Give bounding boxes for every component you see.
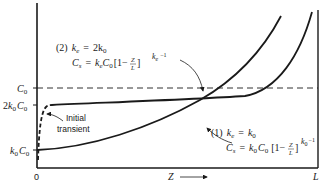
curve-1-bracket-close: ] — [295, 142, 298, 153]
curve-2-frac-num: Z — [131, 56, 135, 63]
curve-2-initial-transient — [38, 105, 52, 160]
curve-1-exponent: k0−1 — [301, 137, 315, 147]
y-label-c0: C0 — [17, 83, 28, 96]
curve-1-condition: (1)ke=k0 — [211, 127, 256, 140]
initial-transient-leader — [47, 114, 63, 121]
diagram-canvas: C0 2k0C0 k0C0 0 Z L (2)ke=2k0 Cs=keC0[1−… — [0, 0, 325, 185]
y-label-k0c0: k0C0 — [10, 145, 30, 158]
curve-2-frac-den: L — [130, 64, 135, 71]
curve-2-condition: (2)ke=2k0 — [56, 42, 107, 55]
x-end-label: L — [312, 171, 319, 182]
curve-2-label: (2)ke=2k0 Cs=keC0[1− Z L ] ke−1 — [56, 42, 167, 71]
curve-1-frac-den: L — [288, 149, 293, 156]
y-label-2k0c0: 2k0C0 — [3, 100, 28, 113]
curve-2-bracket-close: ] — [137, 57, 140, 68]
x-origin-label: 0 — [34, 172, 39, 182]
curve-2-leader — [180, 60, 203, 91]
x-variable-label: Z — [168, 171, 174, 182]
initial-transient-label-line1: Initial — [66, 113, 86, 123]
initial-transient-label-line2: transient — [57, 124, 90, 134]
curve-1-frac-num: Z — [289, 141, 293, 148]
curve-2-exponent: ke−1 — [152, 52, 167, 62]
curve-2-formula: Cs=keC0[1− — [72, 57, 128, 70]
curve-1-formula: Cs=k0C0[1− — [226, 142, 286, 155]
curve-1-label: (1)ke=k0 Cs=k0C0[1− Z L ] k0−1 — [211, 127, 315, 156]
